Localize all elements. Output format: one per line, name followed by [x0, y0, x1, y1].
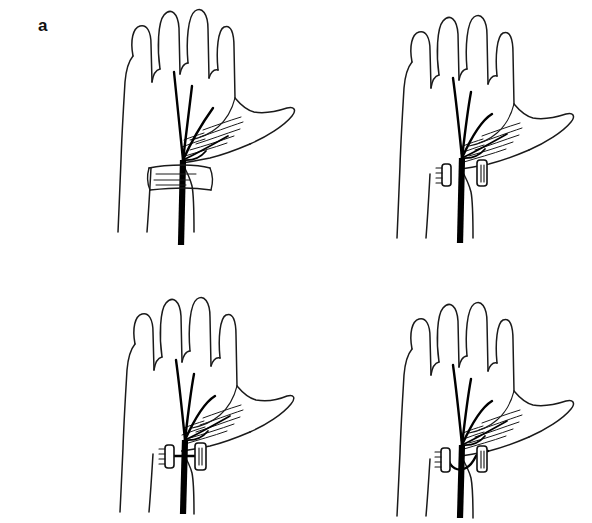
- thumb-web-crease: [469, 104, 514, 146]
- web-ring-middle: [180, 63, 188, 74]
- panel-d-illustration: [296, 262, 592, 523]
- ulnar-border: [397, 349, 412, 516]
- web-little-ring: [154, 357, 162, 370]
- little-finger-outline: [411, 319, 431, 375]
- index-finger-outline: [496, 319, 514, 391]
- thumb-web-crease: [469, 391, 514, 433]
- thumb-outline: [235, 98, 294, 144]
- thumb-web-crease: [192, 386, 237, 428]
- median-nerve-trunk: [460, 445, 462, 518]
- web-middle-index: [488, 363, 497, 371]
- web-middle-index: [211, 358, 220, 366]
- nerve-branch-1: [176, 360, 185, 440]
- ligament-stump-ulnar-b: [436, 164, 451, 186]
- ulnar-border: [120, 344, 135, 512]
- little-finger-outline: [411, 32, 431, 88]
- nerve-branch-1: [453, 78, 462, 158]
- little-finger-outline: [132, 26, 152, 82]
- ligament-stump-radial-c: [195, 443, 206, 470]
- wrist-left-edge: [149, 454, 153, 512]
- ligament-stump-ulnar-d: [435, 448, 450, 472]
- panel-a: a: [0, 0, 296, 261]
- index-finger-outline: [217, 26, 235, 98]
- middle-finger-outline: [466, 16, 488, 84]
- index-finger-outline: [496, 32, 514, 104]
- figure-root: a: [0, 0, 592, 523]
- hand-outline-a: [118, 10, 294, 232]
- thumb-outline: [237, 386, 294, 432]
- median-nerve-trunk: [183, 440, 185, 514]
- web-little-ring: [431, 362, 439, 375]
- middle-finger-outline: [187, 10, 209, 78]
- ligament-stump-radial-d: [477, 446, 487, 472]
- median-nerve-trunk: [460, 158, 462, 243]
- hand-outline-b: [397, 16, 573, 238]
- middle-finger-outline: [189, 298, 211, 366]
- wrist-left-edge: [426, 174, 430, 238]
- ligament-stump-ulnar-c: [159, 445, 174, 468]
- panel-d: d: [296, 262, 592, 523]
- wrist-left-edge: [426, 459, 430, 516]
- hand-outline-c: [120, 298, 294, 514]
- nerve-branch-1: [174, 72, 183, 160]
- ulnar-border: [397, 62, 412, 238]
- middle-finger-outline: [466, 303, 488, 371]
- ring-finger-outline: [160, 299, 182, 362]
- web-little-ring: [431, 75, 439, 88]
- ring-finger-outline: [437, 17, 459, 80]
- thumb-outline: [514, 104, 573, 150]
- ligament-stump-radial-b: [477, 160, 487, 186]
- nerve-branch-1: [453, 365, 462, 445]
- median-nerve-a: [174, 72, 228, 245]
- ulnar-border: [118, 56, 133, 232]
- hand-outline-d: [397, 303, 573, 518]
- panel-b: b: [296, 0, 592, 261]
- web-ring-middle: [182, 351, 190, 362]
- median-nerve-c: [176, 360, 230, 514]
- panel-c: c: [0, 262, 296, 523]
- thumb-outline: [514, 391, 573, 437]
- web-ring-middle: [459, 356, 467, 367]
- panel-label-a: a: [38, 17, 47, 34]
- median-nerve-trunk: [181, 160, 183, 245]
- web-ring-middle: [459, 69, 467, 80]
- web-little-ring: [152, 69, 160, 82]
- median-nerve-d: [453, 365, 507, 518]
- panel-b-illustration: [296, 0, 592, 261]
- web-middle-index: [209, 70, 218, 78]
- web-middle-index: [488, 76, 497, 84]
- panel-a-illustration: [0, 0, 296, 261]
- ring-finger-outline: [158, 11, 180, 74]
- little-finger-outline: [134, 314, 154, 370]
- panel-c-illustration: [0, 262, 296, 523]
- ring-finger-outline: [437, 304, 459, 367]
- index-finger-outline: [219, 314, 237, 386]
